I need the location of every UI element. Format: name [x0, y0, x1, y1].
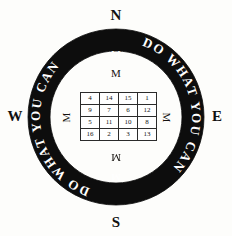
magic-square-cell: 10	[119, 117, 138, 129]
magic-square-row: 4 14 15 1	[81, 93, 157, 105]
magic-square-cell: 14	[100, 93, 119, 105]
magic-square: 4 14 15 1 9 7 6 12 5 11 10 8 16 2 3 13	[80, 92, 157, 141]
interior-mark-west: M	[61, 110, 72, 126]
magic-square-cell: 8	[138, 117, 157, 129]
magic-square-cell: 4	[81, 93, 100, 105]
interior-mark-south: M	[108, 152, 124, 163]
cardinal-label-south: S	[0, 215, 232, 230]
magic-square-cell: 9	[81, 105, 100, 117]
magic-square-cell: 12	[138, 105, 157, 117]
cardinal-label-west: W	[6, 109, 24, 124]
magic-square-row: 16 2 3 13	[81, 129, 157, 141]
magic-square-row: 9 7 6 12	[81, 105, 157, 117]
magic-square-cell: 11	[100, 117, 119, 129]
magic-square-cell: 13	[138, 129, 157, 141]
magic-square-cell: 1	[138, 93, 157, 105]
magic-square-cell: 3	[119, 129, 138, 141]
magic-square-cell: 7	[100, 105, 119, 117]
interior-mark-east: M	[161, 110, 172, 126]
cardinal-label-north: N	[0, 8, 232, 23]
magic-square-cell: 5	[81, 117, 100, 129]
magic-square-cell: 6	[119, 105, 138, 117]
magic-square-cell: 16	[81, 129, 100, 141]
ring-marker-top: M	[111, 48, 121, 60]
cardinal-label-east: E	[208, 109, 226, 124]
talisman-figure: N E S W DO WHAT YOU CAN	[0, 0, 232, 236]
magic-square-cell: 2	[100, 129, 119, 141]
ring-marker-bottom: M	[111, 172, 121, 184]
magic-square-cell: 15	[119, 93, 138, 105]
magic-square-body: 4 14 15 1 9 7 6 12 5 11 10 8 16 2 3 13	[81, 93, 157, 141]
magic-square-row: 5 11 10 8	[81, 117, 157, 129]
interior-mark-north: M	[108, 68, 124, 79]
